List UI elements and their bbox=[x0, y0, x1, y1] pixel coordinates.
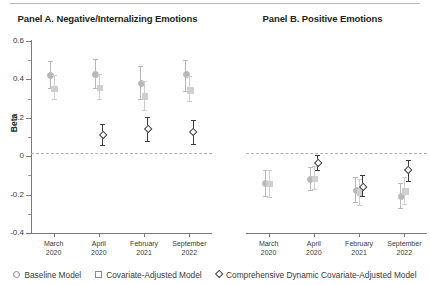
x-axis-tick bbox=[404, 233, 405, 237]
x-axis-tick bbox=[359, 233, 360, 237]
legend-label: Covariate-Adjusted Model bbox=[106, 270, 201, 280]
y-axis-tick bbox=[26, 195, 31, 196]
error-bar-cap bbox=[187, 101, 192, 102]
error-bar-cap bbox=[267, 170, 272, 171]
error-bar-cap bbox=[398, 208, 403, 209]
error-bar-cap bbox=[145, 117, 150, 118]
error-bar-cap bbox=[360, 175, 365, 176]
error-bar-cap bbox=[402, 204, 407, 205]
data-point-diamond bbox=[189, 128, 198, 137]
error-bar-cap bbox=[191, 144, 196, 145]
error-bar-cap bbox=[406, 160, 411, 161]
zero-reference-line bbox=[246, 153, 427, 154]
legend-item-covariate-adjusted: Covariate-Adjusted Model bbox=[95, 270, 201, 280]
y-axis-tick-label: 0 bbox=[0, 151, 24, 160]
error-bar-cap bbox=[142, 81, 147, 82]
y-axis-tick bbox=[26, 79, 31, 80]
data-point-square bbox=[51, 86, 58, 93]
legend-item-comprehensive: Comprehensive Dynamic Covariate-Adjusted… bbox=[216, 270, 417, 280]
error-bar-cap bbox=[315, 155, 320, 156]
error-bar-cap bbox=[183, 60, 188, 61]
y-axis-minor-tick bbox=[28, 175, 31, 176]
data-point-square bbox=[402, 188, 409, 195]
error-bar-cap bbox=[145, 141, 150, 142]
error-bar-cap bbox=[187, 76, 192, 77]
error-bar-cap bbox=[357, 205, 362, 206]
error-bar-cap bbox=[97, 99, 102, 100]
panel-a: Panel A. Negative/Internalizing Emotions… bbox=[0, 0, 215, 262]
x-axis-tick bbox=[269, 233, 270, 237]
y-axis-line bbox=[31, 40, 32, 234]
y-axis-tick-label: 0.4 bbox=[0, 74, 24, 83]
data-point-square bbox=[142, 93, 149, 100]
error-bar-cap bbox=[100, 145, 105, 146]
error-bar-cap bbox=[100, 124, 105, 125]
y-axis-minor-tick bbox=[28, 214, 31, 215]
data-point-diamond bbox=[404, 166, 413, 175]
error-bar-cap bbox=[353, 202, 358, 203]
data-point-square bbox=[312, 176, 319, 183]
y-axis-minor-tick bbox=[28, 137, 31, 138]
panel-b-plot-area: March2020April2020February2021September2… bbox=[215, 0, 430, 262]
x-axis-line bbox=[246, 233, 427, 234]
y-axis-minor-tick bbox=[28, 99, 31, 100]
panel-a-plot-area: Beta -0.4-0.200.20.40.6March2020April202… bbox=[0, 0, 215, 262]
x-axis-tick bbox=[54, 233, 55, 237]
error-bar-cap bbox=[138, 66, 143, 67]
y-axis-tick bbox=[26, 156, 31, 157]
error-bar-cap bbox=[142, 110, 147, 111]
data-point-square bbox=[97, 85, 104, 92]
data-point-square bbox=[266, 181, 273, 188]
y-axis-tick bbox=[26, 233, 31, 234]
legend: Baseline Model Covariate-Adjusted Model … bbox=[0, 264, 430, 285]
y-axis-title: Beta bbox=[9, 103, 19, 143]
x-axis-line bbox=[31, 233, 212, 234]
error-bar-cap bbox=[406, 181, 411, 182]
error-bar-cap bbox=[398, 183, 403, 184]
error-bar-cap bbox=[52, 99, 57, 100]
error-bar-cap bbox=[360, 196, 365, 197]
panel-b: Panel B. Positive Emotions March2020Apri… bbox=[215, 0, 430, 262]
error-bar-cap bbox=[191, 120, 196, 121]
error-bar-cap bbox=[312, 189, 317, 190]
square-open-icon bbox=[95, 271, 102, 278]
y-axis-tick-label: 0.2 bbox=[0, 113, 24, 122]
error-bar-cap bbox=[48, 61, 53, 62]
data-point-square bbox=[187, 87, 194, 94]
y-axis-minor-tick bbox=[28, 60, 31, 61]
data-point-diamond bbox=[99, 131, 108, 140]
zero-reference-line bbox=[31, 153, 212, 154]
legend-label: Comprehensive Dynamic Covariate-Adjusted… bbox=[226, 270, 416, 280]
error-bar-cap bbox=[267, 197, 272, 198]
error-bar-cap bbox=[308, 190, 313, 191]
y-axis-tick-label: 0.6 bbox=[0, 36, 24, 45]
error-bar-cap bbox=[315, 170, 320, 171]
x-axis-tick bbox=[144, 233, 145, 237]
x-axis-tick-label: September2022 bbox=[373, 240, 430, 257]
y-axis-tick-label: -0.4 bbox=[0, 228, 24, 237]
y-axis-tick bbox=[26, 118, 31, 119]
x-axis-tick bbox=[99, 233, 100, 237]
x-axis-tick bbox=[314, 233, 315, 237]
x-axis-tick-label: September2022 bbox=[158, 240, 220, 257]
legend-item-baseline: Baseline Model bbox=[13, 270, 81, 280]
y-axis-tick-label: -0.2 bbox=[0, 190, 24, 199]
error-bar-cap bbox=[97, 74, 102, 75]
error-bar-cap bbox=[52, 75, 57, 76]
data-point-diamond bbox=[144, 125, 153, 134]
legend-label: Baseline Model bbox=[24, 270, 81, 280]
y-axis-tick bbox=[26, 41, 31, 42]
error-bar-cap bbox=[93, 59, 98, 60]
x-axis-tick bbox=[189, 233, 190, 237]
circle-open-icon bbox=[13, 271, 20, 278]
diamond-open-icon bbox=[214, 270, 223, 279]
